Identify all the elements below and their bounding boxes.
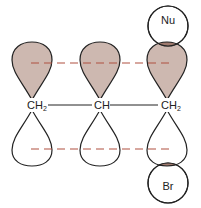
lower-lobe-middle <box>80 110 120 166</box>
nucleophile-label: Nu <box>161 14 175 26</box>
upper-lobe-right <box>147 42 187 100</box>
bromine-label: Br <box>163 180 174 192</box>
upper-lobe-left <box>12 42 52 100</box>
orbital-diagram: CH2 CH CH2 Nu Br <box>0 0 201 208</box>
lower-lobe-right <box>147 110 187 166</box>
lower-lobe-left <box>12 110 52 166</box>
carbon-label-2: CH <box>94 99 110 111</box>
upper-lobe-middle <box>80 42 120 100</box>
